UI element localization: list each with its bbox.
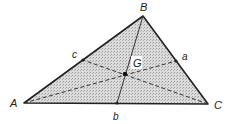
midpoint-label-b: b xyxy=(113,111,119,122)
centroid-marker xyxy=(123,72,127,76)
vertex-label-c: C xyxy=(214,99,222,111)
midpoint-label-a: a xyxy=(182,51,188,62)
midpoint-a-marker xyxy=(174,59,177,62)
vertex-label-b: B xyxy=(140,1,147,13)
vertex-label-a: A xyxy=(9,97,17,109)
triangle-abc xyxy=(24,16,208,104)
midpoint-label-c: c xyxy=(72,49,77,60)
centroid-label-g: G xyxy=(133,57,142,69)
centroid-diagram: A B C a b c G xyxy=(0,0,230,124)
midpoint-b-marker xyxy=(115,101,118,104)
midpoint-c-marker xyxy=(81,58,84,61)
